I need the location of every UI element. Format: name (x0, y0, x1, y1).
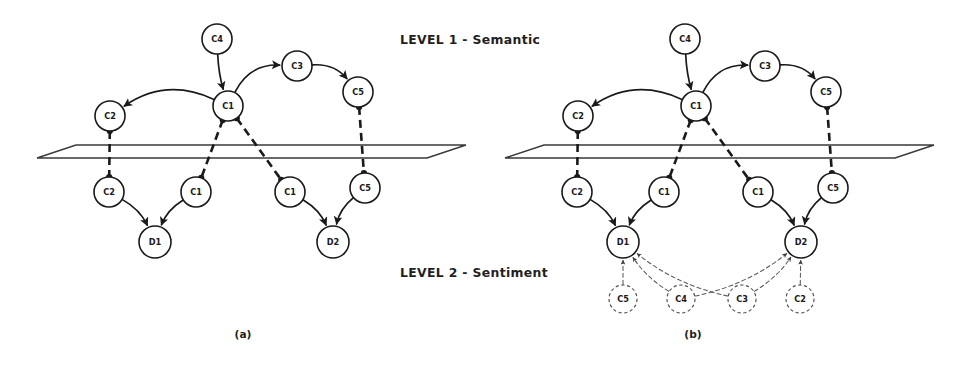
graph-node-c5[interactable]: C5 (343, 77, 373, 107)
relation-edge[interactable] (780, 65, 814, 79)
level-annotation-level1: LEVEL 1 - Semantic (400, 32, 540, 47)
panel-caption: (b) (684, 328, 701, 340)
graph-node-c1[interactable]: C1 (213, 91, 243, 121)
node-circle (343, 77, 373, 107)
panel-caption: (a) (235, 328, 252, 340)
sentiment-edge[interactable] (633, 258, 669, 292)
node-circle (667, 285, 695, 313)
graph-node-c1[interactable]: C1 (681, 91, 711, 121)
node-circle (563, 101, 593, 131)
node-circle (785, 226, 817, 258)
relation-edge[interactable] (235, 65, 280, 92)
sentiment-edge[interactable] (754, 257, 790, 291)
level-annotation-level2: LEVEL 2 - Sentiment (400, 265, 548, 280)
graph-node-c1[interactable]: C1 (181, 177, 211, 207)
graph-node-c1[interactable]: C1 (743, 177, 773, 207)
node-circle (94, 177, 124, 207)
graph-node-d2[interactable]: D2 (785, 226, 817, 258)
graph-node-c4[interactable]: C4 (202, 24, 232, 54)
node-circle (786, 285, 814, 313)
relation-edge[interactable] (629, 200, 650, 224)
node-circle (811, 77, 841, 107)
anchor-dot-layer (106, 104, 835, 183)
graph-node-c5[interactable]: C5 (818, 173, 848, 203)
node-circle (317, 226, 349, 258)
node-circle (562, 177, 592, 207)
projection-edge[interactable] (827, 107, 832, 173)
graph-node-c5[interactable]: C5 (811, 77, 841, 107)
relation-edge[interactable] (124, 90, 214, 106)
node-circle (750, 51, 780, 81)
relation-edge[interactable] (590, 200, 615, 226)
graph-node-c2[interactable]: C2 (94, 177, 124, 207)
node-circle (275, 177, 305, 207)
node-circle (609, 285, 637, 313)
graph-node-c2[interactable]: C2 (562, 177, 592, 207)
separation-plane (505, 145, 934, 158)
graph-node-c3[interactable]: C3 (282, 51, 312, 81)
node-circle (202, 24, 232, 54)
graph-node-d1[interactable]: D1 (607, 226, 639, 258)
graph-node-c5[interactable]: C5 (609, 285, 637, 313)
figure-root: C4C1C3C5C2C2C1C1C5D1D2C5C4C3C2C4C1C3C5C2… (0, 0, 964, 368)
graph-node-c4[interactable]: C4 (670, 24, 700, 54)
graph-node-c1[interactable]: C1 (649, 177, 679, 207)
graph-node-c5[interactable]: C5 (350, 173, 380, 203)
node-circle (743, 177, 773, 207)
node-circle (670, 24, 700, 54)
graph-node-c2[interactable]: C2 (563, 101, 593, 131)
relation-edge[interactable] (686, 54, 691, 89)
diagram-canvas: C4C1C3C5C2C2C1C1C5D1D2C5C4C3C2C4C1C3C5C2… (0, 0, 964, 368)
projection-edge[interactable] (359, 107, 364, 173)
graph-node-c4[interactable]: C4 (667, 285, 695, 313)
node-circle (95, 101, 125, 131)
node-circle (213, 91, 243, 121)
edge-layer (109, 54, 832, 296)
graph-node-c3[interactable]: C3 (750, 51, 780, 81)
node-circle (350, 173, 380, 203)
relation-edge[interactable] (703, 65, 748, 92)
graph-node-c2[interactable]: C2 (95, 101, 125, 131)
relation-edge[interactable] (312, 65, 346, 79)
node-circle (181, 177, 211, 207)
node-circle (818, 173, 848, 203)
plane-layer (37, 145, 934, 158)
relation-edge[interactable] (218, 54, 223, 89)
graph-node-d2[interactable]: D2 (317, 226, 349, 258)
node-circle (728, 285, 756, 313)
node-circle (649, 177, 679, 207)
node-circle (282, 51, 312, 81)
relation-edge[interactable] (303, 200, 326, 225)
node-circle (681, 91, 711, 121)
relation-edge[interactable] (122, 200, 147, 226)
graph-node-c3[interactable]: C3 (728, 285, 756, 313)
graph-node-d1[interactable]: D1 (139, 226, 171, 258)
relation-edge[interactable] (161, 200, 182, 224)
relation-edge[interactable] (771, 200, 794, 225)
relation-edge[interactable] (805, 198, 821, 224)
relation-edge[interactable] (337, 198, 353, 224)
graph-node-c1[interactable]: C1 (275, 177, 305, 207)
node-circle (607, 226, 639, 258)
graph-node-c2[interactable]: C2 (786, 285, 814, 313)
relation-edge[interactable] (592, 90, 682, 106)
separation-plane (37, 145, 466, 158)
node-circle (139, 226, 171, 258)
